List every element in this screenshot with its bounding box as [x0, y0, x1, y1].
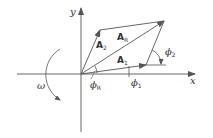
parallelogram-top	[100, 21, 164, 30]
ar-label: AR	[117, 32, 128, 43]
vector-ar	[81, 21, 164, 74]
phi2-label: ϕ2	[165, 46, 176, 58]
phi2-arc	[152, 50, 161, 64]
phasor-diagram: x y ϕ2 ϕ1 ϕR A2 AR A1 ω	[0, 0, 213, 138]
parallelogram-right	[146, 21, 164, 65]
phi1-label: ϕ1	[131, 77, 142, 89]
omega-rotation-arrow	[46, 49, 60, 100]
x-axis-label: x	[190, 75, 196, 86]
omega-label: ω	[37, 80, 45, 91]
y-axis-label: y	[69, 6, 76, 17]
a2-label: A2	[96, 40, 107, 51]
vector-a1	[81, 65, 146, 74]
a1-label: A1	[117, 55, 128, 66]
phiR-label: ϕR	[90, 79, 101, 91]
